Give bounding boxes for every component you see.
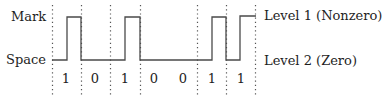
level2-label: Level 2 (Zero) [264, 54, 357, 68]
bit-label: 1 [115, 72, 135, 86]
bit-label: 0 [173, 72, 193, 86]
waveform [52, 16, 256, 60]
space-label: Space [6, 53, 46, 67]
bit-label: 1 [202, 72, 222, 86]
bit-label: 0 [85, 72, 105, 86]
bit-label: 0 [144, 72, 164, 86]
bit-label: 1 [56, 72, 76, 86]
level1-label: Level 1 (Nonzero) [264, 9, 382, 23]
bit-label: 1 [231, 72, 251, 86]
mark-label: Mark [11, 10, 46, 24]
